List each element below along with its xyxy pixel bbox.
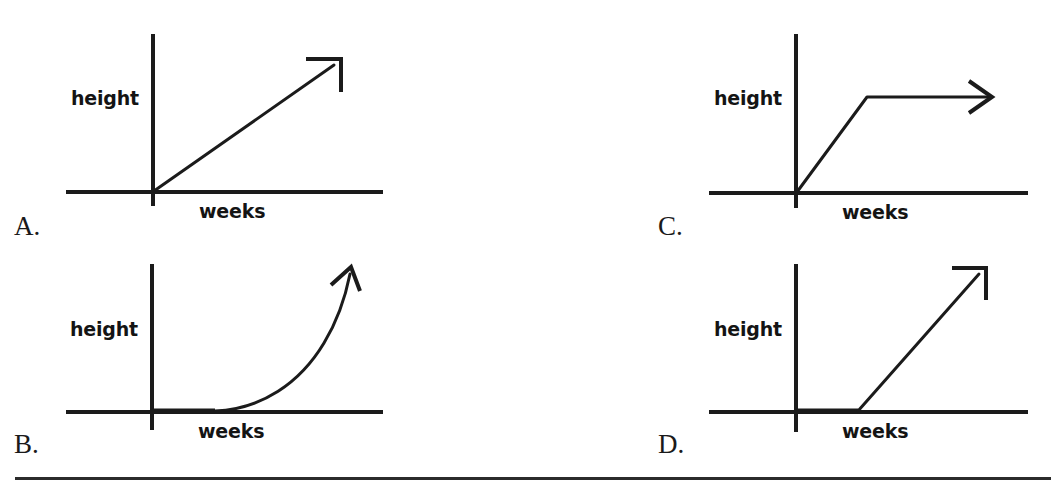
x-axis-label: weeks bbox=[842, 420, 908, 442]
choice-panel-c: height weeks C. bbox=[643, 0, 1061, 250]
x-axis-label: weeks bbox=[198, 420, 264, 442]
y-axis-label: height bbox=[71, 87, 139, 109]
choice-panel-d: height weeks D. bbox=[643, 250, 1061, 475]
choice-letter-c: C. bbox=[658, 213, 683, 240]
bottom-divider-rule bbox=[15, 477, 1051, 480]
y-axis-label: height bbox=[70, 318, 138, 340]
data-line bbox=[858, 274, 979, 411]
choice-panel-b: height weeks B. bbox=[0, 250, 420, 475]
choice-panel-a: height weeks A. bbox=[0, 0, 420, 250]
choice-letter-a: A. bbox=[14, 213, 40, 240]
choice-letter-b: B. bbox=[14, 431, 39, 458]
x-axis-label: weeks bbox=[199, 200, 265, 222]
choice-letter-d: D. bbox=[658, 431, 684, 458]
x-axis-label: weeks bbox=[842, 201, 908, 223]
data-line bbox=[154, 65, 334, 191]
graph-a: height weeks bbox=[0, 0, 420, 250]
y-axis-label: height bbox=[714, 318, 782, 340]
data-curve bbox=[215, 274, 350, 411]
graph-c: height weeks bbox=[643, 0, 1061, 250]
data-line bbox=[797, 97, 990, 192]
graph-d: height weeks bbox=[643, 250, 1061, 475]
arrowhead-icon bbox=[306, 59, 341, 92]
worksheet-page: height weeks A. height weeks C. bbox=[0, 0, 1061, 495]
y-axis-label: height bbox=[714, 87, 782, 109]
graph-b: height weeks bbox=[0, 250, 420, 475]
